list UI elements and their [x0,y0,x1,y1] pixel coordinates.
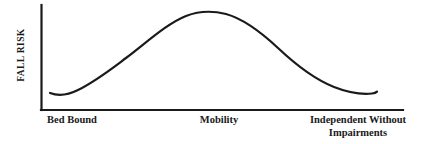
x-tick-label-independent-without-impairments: Independent Without Impairments [296,113,420,139]
y-axis-label: FALL RISK [16,17,26,93]
x-tick-label-bed-bound: Bed Bound [20,113,124,126]
fall-risk-chart-figure: FALL RISK Bed Bound Mobility Independent… [0,0,430,144]
x-tick-label-mobility: Mobility [170,113,268,126]
fall-risk-curve [50,12,377,95]
